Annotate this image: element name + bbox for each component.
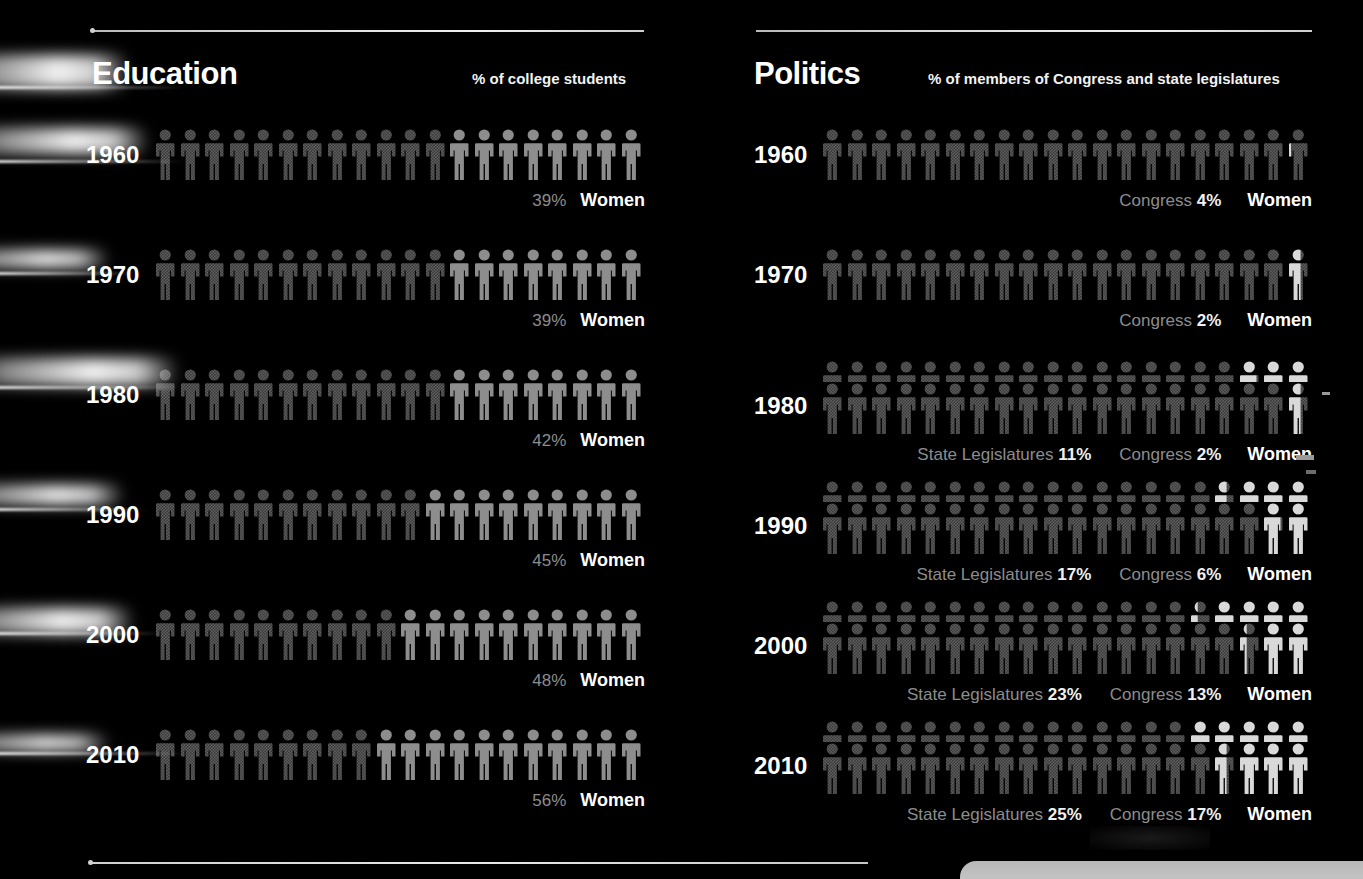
state-legislatures-percent-2010: 25% bbox=[1048, 805, 1082, 824]
politics-row-1960: 1960 bbox=[0, 128, 1363, 248]
state-legislatures-figure-men bbox=[894, 600, 919, 622]
politics-caption-1980: State Legislatures 11%Congress 2%Women bbox=[700, 444, 1312, 465]
congress-figure-men bbox=[1139, 742, 1164, 794]
state-legislatures-figure-women bbox=[1212, 480, 1237, 502]
congress-figure-men bbox=[1114, 382, 1139, 434]
state-legislatures-figure-men bbox=[918, 600, 943, 622]
congress-figure-men bbox=[1065, 248, 1090, 300]
state-legislatures-figure-women bbox=[1188, 600, 1213, 622]
congress-figure-men bbox=[820, 382, 845, 434]
congress-figure-men bbox=[1065, 382, 1090, 434]
politics-congress-row-1960 bbox=[820, 128, 1310, 180]
congress-figure-men bbox=[992, 742, 1017, 794]
state-legislatures-figure-men bbox=[1163, 480, 1188, 502]
politics-congress-row-2000 bbox=[820, 622, 1310, 674]
congress-figure-men bbox=[1139, 382, 1164, 434]
state-legislatures-figure-women bbox=[1237, 600, 1262, 622]
state-legislatures-figure-men bbox=[1114, 720, 1139, 742]
state-legislatures-figure-men bbox=[1090, 720, 1115, 742]
congress-figure-women bbox=[1286, 502, 1311, 554]
congress-figure-men bbox=[943, 622, 968, 674]
congress-figure-men bbox=[918, 622, 943, 674]
congress-figure-men bbox=[1090, 502, 1115, 554]
politics-row-2000: 2000 bbox=[0, 608, 1363, 728]
politics-title: Politics bbox=[754, 56, 860, 92]
congress-figure-men bbox=[992, 622, 1017, 674]
state-legislatures-figure-women bbox=[1237, 720, 1262, 742]
state-legislatures-figure-women bbox=[1212, 600, 1237, 622]
congress-figure-women bbox=[1261, 742, 1286, 794]
congress-figure-women bbox=[1212, 742, 1237, 794]
congress-figure-men bbox=[894, 622, 919, 674]
state-legislatures-figure-men bbox=[918, 480, 943, 502]
politics-caption-1990: State Legislatures 17%Congress 6%Women bbox=[700, 564, 1312, 585]
congress-figure-men bbox=[1041, 382, 1066, 434]
congress-figure-men bbox=[894, 742, 919, 794]
congress-figure-men bbox=[943, 502, 968, 554]
congress-figure-men bbox=[1090, 382, 1115, 434]
congress-figure-men bbox=[1114, 248, 1139, 300]
congress-figure-men bbox=[1139, 622, 1164, 674]
politics-congress-stat-2000: Congress 13% bbox=[1110, 685, 1222, 704]
state-legislatures-figure-men bbox=[869, 600, 894, 622]
politics-women-label-1960: Women bbox=[1247, 190, 1312, 210]
congress-figure-men bbox=[894, 382, 919, 434]
politics-caption-1970: Congress 2%Women bbox=[700, 310, 1312, 331]
bottom-rule-dot bbox=[88, 860, 93, 865]
congress-figure-men bbox=[1188, 128, 1213, 180]
congress-figure-men bbox=[869, 382, 894, 434]
state-legislatures-figure-men bbox=[845, 600, 870, 622]
politics-state-legislatures-row-1980 bbox=[820, 360, 1310, 382]
state-legislatures-figure-men bbox=[943, 600, 968, 622]
congress-percent-1990: 6% bbox=[1197, 565, 1222, 584]
congress-figure-men bbox=[1114, 128, 1139, 180]
congress-figure-men bbox=[967, 128, 992, 180]
state-legislatures-percent-1990: 17% bbox=[1057, 565, 1091, 584]
congress-figure-men bbox=[1188, 382, 1213, 434]
state-legislatures-figure-men bbox=[943, 480, 968, 502]
politics-year-label-1990: 1990 bbox=[754, 512, 807, 540]
politics-state-legislatures-stat-1990: State Legislatures 17% bbox=[916, 565, 1091, 584]
politics-caption-2000: State Legislatures 23%Congress 13%Women bbox=[700, 684, 1312, 705]
politics-row-1990: 1990 bbox=[0, 488, 1363, 608]
congress-figure-men bbox=[992, 248, 1017, 300]
state-legislatures-figure-men bbox=[967, 480, 992, 502]
state-legislatures-figure-men bbox=[1163, 600, 1188, 622]
politics-year-label-1960: 1960 bbox=[754, 141, 807, 169]
politics-women-label-1990: Women bbox=[1247, 564, 1312, 584]
congress-figure-women bbox=[1286, 742, 1311, 794]
congress-figure-men bbox=[1090, 128, 1115, 180]
congress-percent-1960: 4% bbox=[1197, 191, 1222, 210]
state-legislatures-figure-men bbox=[967, 360, 992, 382]
congress-figure-men bbox=[1114, 502, 1139, 554]
congress-figure-men bbox=[1016, 742, 1041, 794]
congress-figure-women bbox=[1261, 622, 1286, 674]
congress-figure-men bbox=[1065, 742, 1090, 794]
congress-figure-men bbox=[918, 248, 943, 300]
politics-state-legislatures-row-2010 bbox=[820, 720, 1310, 742]
state-legislatures-figure-men bbox=[1090, 480, 1115, 502]
state-legislatures-figure-men bbox=[992, 600, 1017, 622]
congress-figure-men bbox=[869, 128, 894, 180]
politics-year-label-1970: 1970 bbox=[754, 261, 807, 289]
congress-label-1960: Congress bbox=[1119, 191, 1196, 210]
congress-label-1970: Congress bbox=[1119, 311, 1196, 330]
politics-row-2010: 2010 bbox=[0, 728, 1363, 848]
congress-figure-men bbox=[1212, 382, 1237, 434]
congress-figure-men bbox=[1212, 128, 1237, 180]
state-legislatures-figure-women bbox=[1261, 600, 1286, 622]
state-legislatures-figure-men bbox=[1139, 720, 1164, 742]
state-legislatures-figure-men bbox=[820, 480, 845, 502]
congress-figure-men bbox=[1016, 502, 1041, 554]
congress-figure-men bbox=[845, 502, 870, 554]
state-legislatures-figure-women bbox=[1261, 720, 1286, 742]
congress-figure-men bbox=[943, 248, 968, 300]
state-legislatures-figure-men bbox=[1139, 600, 1164, 622]
congress-percent-2000: 13% bbox=[1187, 685, 1221, 704]
state-legislatures-figure-men bbox=[1114, 360, 1139, 382]
congress-figure-men bbox=[1163, 128, 1188, 180]
congress-figure-men bbox=[869, 622, 894, 674]
congress-figure-men bbox=[1065, 622, 1090, 674]
congress-figure-men bbox=[1212, 248, 1237, 300]
state-legislatures-figure-men bbox=[1016, 360, 1041, 382]
